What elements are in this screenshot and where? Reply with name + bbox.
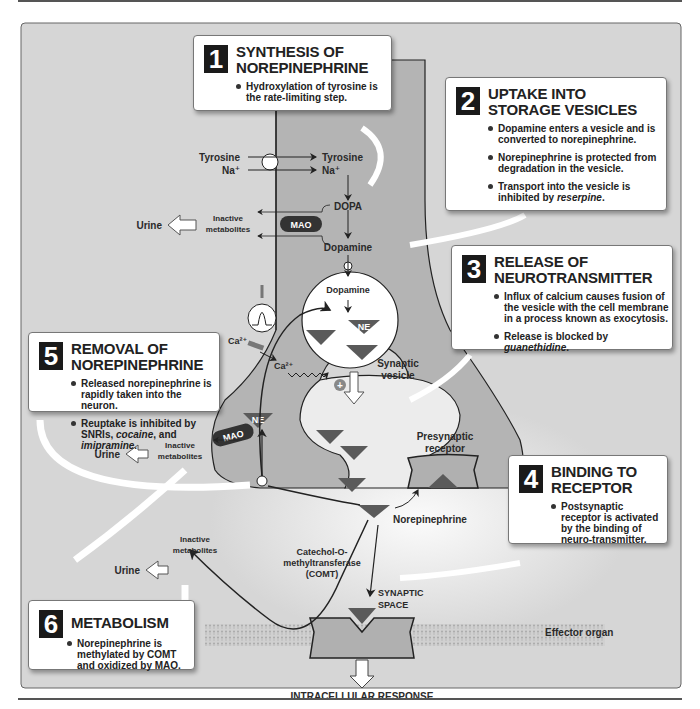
- svg-text:INTRACELLULAR RESPONSE: INTRACELLULAR RESPONSE: [291, 691, 434, 702]
- bullet: Norepinephrine is protected from degrada…: [488, 152, 663, 174]
- svg-text:+: +: [337, 380, 343, 391]
- step-number: 6: [39, 610, 63, 638]
- svg-text:MAO: MAO: [291, 220, 312, 230]
- bullet: Transport into the vesicle is inhibited …: [488, 181, 663, 203]
- svg-text:Urine: Urine: [114, 565, 140, 576]
- svg-text:metabolites: metabolites: [206, 225, 251, 234]
- svg-text:methyltransferase: methyltransferase: [283, 558, 361, 568]
- svg-text:Presynaptic: Presynaptic: [417, 431, 474, 442]
- callout-metabolism: 6 METABOLISM Norepinephrine is methylate…: [28, 600, 195, 670]
- svg-text:Na⁺: Na⁺: [222, 165, 240, 176]
- callout-release: 3 RELEASE OFNEUROTRANSMITTER Influx of c…: [451, 245, 673, 350]
- bullet: Released norepinephrine is rapidly taken…: [71, 378, 219, 411]
- svg-text:Ca²⁺: Ca²⁺: [228, 336, 248, 346]
- bullet: Postsynaptic receptor is activated by th…: [551, 501, 666, 545]
- callout-synthesis: 1 SYNTHESIS OFNOREPINEPHRINE Hydroxylati…: [193, 35, 392, 111]
- callout-uptake: 2 UPTAKE INTOSTORAGE VESICLES Dopamine e…: [445, 77, 667, 211]
- svg-text:(COMT): (COMT): [306, 569, 339, 579]
- svg-text:Ca²⁺: Ca²⁺: [274, 361, 294, 371]
- step-number: 3: [462, 255, 486, 283]
- svg-text:Tyrosine: Tyrosine: [322, 152, 363, 163]
- svg-text:NE: NE: [358, 322, 371, 332]
- svg-text:Inactive: Inactive: [213, 214, 243, 223]
- svg-text:Catechol-O-: Catechol-O-: [296, 547, 347, 557]
- callout-title: SYNTHESIS OFNOREPINEPHRINE: [236, 44, 368, 76]
- svg-text:SYNAPTIC: SYNAPTIC: [378, 588, 424, 598]
- svg-text:Dopamine: Dopamine: [326, 285, 370, 295]
- bullet: Norepinephrine is methylated by COMT and…: [67, 638, 192, 671]
- svg-text:Tyrosine: Tyrosine: [199, 152, 240, 163]
- callout-title: RELEASE OFNEUROTRANSMITTER: [494, 254, 652, 286]
- callout-title: BINDING TORECEPTOR: [551, 464, 637, 496]
- svg-text:SPACE: SPACE: [378, 600, 408, 610]
- callout-title: UPTAKE INTOSTORAGE VESICLES: [488, 86, 637, 118]
- step-number: 5: [39, 342, 63, 370]
- svg-text:Dopamine: Dopamine: [324, 242, 373, 253]
- action-potential-icon: [248, 304, 276, 332]
- bullet: Reuptake is inhibited by SNRIs, cocaine,…: [71, 418, 219, 451]
- step-number: 4: [519, 465, 543, 493]
- svg-text:Inactive: Inactive: [180, 535, 210, 544]
- bullet: Release is blocked by guanethidine.: [494, 331, 669, 353]
- svg-text:Na⁺: Na⁺: [322, 165, 340, 176]
- svg-text:vesicle: vesicle: [381, 370, 415, 381]
- callout-removal: 5 REMOVAL OFNOREPINEPHRINE Released nore…: [28, 332, 220, 412]
- step-number: 2: [456, 87, 480, 115]
- bullet: Dopamine enters a vesicle and is convert…: [488, 123, 663, 145]
- callout-title: METABOLISM: [71, 615, 169, 631]
- tyrosine-transporter: [262, 154, 278, 170]
- step-number: 1: [204, 45, 228, 73]
- svg-text:Effector organ: Effector organ: [545, 627, 613, 638]
- svg-text:Norepinephrine: Norepinephrine: [393, 514, 467, 525]
- bullet: Hydroxylation of tyrosine is the rate-li…: [236, 81, 386, 103]
- svg-text:Synaptic: Synaptic: [377, 358, 419, 369]
- callout-binding: 4 BINDING TORECEPTOR Postsynaptic recept…: [508, 455, 668, 544]
- svg-text:Urine: Urine: [136, 220, 162, 231]
- callout-title: REMOVAL OFNOREPINEPHRINE: [71, 341, 203, 373]
- bullet: Influx of calcium causes fusion of the v…: [494, 291, 669, 324]
- svg-text:receptor: receptor: [425, 443, 465, 454]
- svg-text:metabolites: metabolites: [173, 546, 218, 555]
- svg-text:DOPA: DOPA: [334, 201, 362, 212]
- bottom-rule: [18, 698, 682, 700]
- svg-text:NE: NE: [252, 415, 265, 425]
